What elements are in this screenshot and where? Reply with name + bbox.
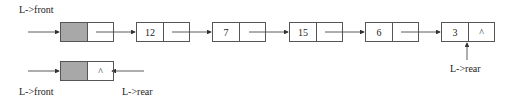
front-pointer-label: L->front bbox=[19, 4, 54, 15]
node-next bbox=[239, 23, 265, 41]
node-data: 15 bbox=[290, 23, 316, 41]
head-node-data bbox=[61, 23, 87, 41]
node-next bbox=[163, 23, 189, 41]
empty-head-node: ^ bbox=[60, 61, 114, 81]
tail-node: 3 ^ bbox=[441, 22, 495, 42]
list-node: 15 bbox=[289, 22, 343, 42]
rear-pointer-label: L->rear bbox=[450, 63, 481, 74]
empty-front-pointer-label: L->front bbox=[19, 86, 54, 97]
head-node bbox=[60, 22, 114, 42]
list-node: 6 bbox=[365, 22, 419, 42]
arrows-layer bbox=[0, 0, 513, 103]
node-next bbox=[392, 23, 418, 41]
empty-head-data bbox=[61, 62, 87, 80]
list-node: 12 bbox=[136, 22, 190, 42]
empty-rear-pointer-label: L->rear bbox=[122, 86, 153, 97]
null-pointer: ^ bbox=[87, 62, 113, 80]
node-data: 7 bbox=[213, 23, 239, 41]
null-pointer: ^ bbox=[468, 23, 494, 41]
node-next bbox=[316, 23, 342, 41]
list-node: 7 bbox=[212, 22, 266, 42]
node-data: 3 bbox=[442, 23, 468, 41]
node-data: 6 bbox=[366, 23, 392, 41]
head-node-next bbox=[87, 23, 113, 41]
node-data: 12 bbox=[137, 23, 163, 41]
